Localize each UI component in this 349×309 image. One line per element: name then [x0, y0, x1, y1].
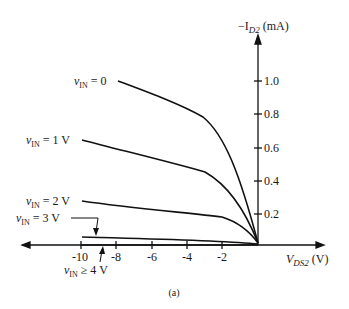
y-tick-labels: 1.0 0.8 0.6 0.4 0.2	[264, 74, 279, 221]
curve-vin-3	[82, 237, 258, 244]
x-tick--8: -8	[111, 250, 121, 264]
x-tick--10: -10	[72, 250, 88, 264]
y-axis-label: −ID2 (mA)	[238, 19, 289, 35]
x-tick--6: -6	[147, 250, 157, 264]
leader-arrow-vin-3-icon	[93, 228, 99, 236]
label-vin-4: vIN ≥ 4 V	[64, 263, 108, 279]
curve-vin-1	[82, 140, 258, 243]
label-vin-3: vIN = 3 V	[16, 211, 60, 227]
y-tick-0.4: 0.4	[264, 174, 279, 188]
characteristic-chart: 1.0 0.8 0.6 0.4 0.2 -10 -8 -6 -4 -2 −ID2…	[0, 0, 349, 309]
x-tick--2: -2	[217, 250, 227, 264]
y-tick-0.6: 0.6	[264, 141, 279, 155]
figure-caption: (a)	[168, 287, 179, 299]
label-vin-1: vIN = 1 V	[26, 133, 70, 149]
y-tick-0.2: 0.2	[264, 207, 279, 221]
y-axis-arrow-icon	[255, 35, 261, 44]
x-axis-label: VDS2 (V)	[286, 252, 329, 268]
y-tick-1.0: 1.0	[264, 74, 279, 88]
curve-vin-2	[82, 201, 258, 243]
x-tick--4: -4	[182, 250, 192, 264]
curves	[71, 81, 258, 262]
label-vin-0: vIN = 0	[74, 74, 107, 90]
x-axis-left-arrow-icon	[22, 242, 30, 248]
x-axis-right-arrow-icon	[316, 242, 324, 248]
label-vin-2: vIN = 2 V	[26, 194, 70, 210]
curve-vin-0	[118, 81, 258, 243]
x-tick-labels: -10 -8 -6 -4 -2	[72, 250, 227, 264]
y-tick-0.8: 0.8	[264, 107, 279, 121]
leader-arrow-vin-4-icon	[99, 246, 105, 254]
